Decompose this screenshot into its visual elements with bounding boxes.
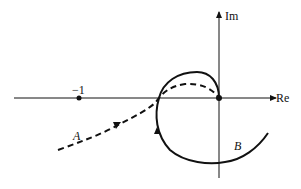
critical-point-label: −1	[72, 84, 85, 96]
curve-a-label: A	[73, 130, 80, 142]
curve-b	[157, 72, 268, 163]
origin-dot	[216, 95, 222, 101]
nyquist-diagram: −1 Im Re A B	[0, 0, 301, 189]
real-axis-label: Re	[276, 92, 289, 104]
curve-b-label: B	[234, 140, 241, 152]
imaginary-axis-label: Im	[225, 10, 238, 22]
plot-area	[0, 0, 301, 189]
